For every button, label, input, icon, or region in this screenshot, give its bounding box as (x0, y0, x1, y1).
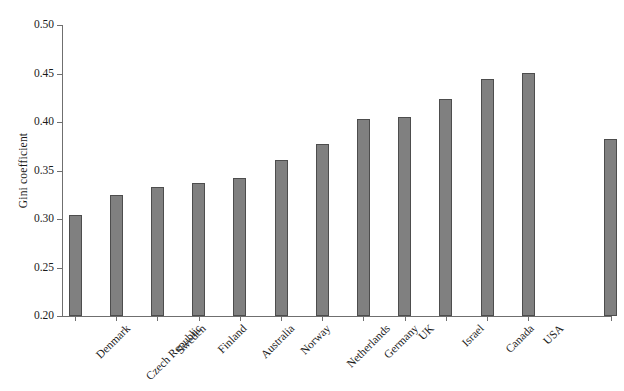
x-axis-tick (446, 316, 447, 321)
x-axis-label-text: Canada (503, 322, 536, 355)
y-axis-tick-label-wrapper: 0.50 (0, 19, 54, 31)
gini-coefficient-bar-chart: Gini coefficient 0.500.450.400.350.300.2… (0, 0, 624, 391)
x-axis-label: UK (415, 322, 435, 342)
y-axis-tick-label: 0.25 (4, 262, 54, 274)
bar (192, 183, 205, 316)
bar (522, 73, 535, 316)
x-axis-label-text: Denmark (94, 322, 133, 361)
x-axis-label: Israel (459, 322, 486, 349)
x-axis-label-text: Israel (459, 322, 486, 349)
bar (69, 215, 82, 316)
x-axis-tick (75, 316, 76, 321)
x-axis-label: Canada (503, 322, 536, 355)
bar (316, 144, 329, 316)
bar (481, 79, 494, 316)
bar (275, 160, 288, 316)
x-axis-label: Australia (258, 322, 296, 360)
bar (151, 187, 164, 316)
x-axis-tick (528, 316, 529, 321)
x-axis-tick (363, 316, 364, 321)
bar (604, 139, 617, 316)
y-axis-tick (57, 122, 62, 123)
x-axis-label: Denmark (94, 322, 133, 361)
y-axis-tick-label-wrapper: 0.40 (0, 116, 54, 128)
x-axis-label-text: Netherlands (344, 322, 392, 370)
x-axis-tick (611, 316, 612, 321)
y-axis-tick (57, 74, 62, 75)
y-axis-tick-label: 0.50 (4, 19, 54, 31)
bar (439, 99, 452, 316)
x-axis-label: USA (541, 322, 566, 347)
x-axis-label: Norway (298, 322, 333, 357)
y-axis-tick (57, 171, 62, 172)
y-axis-line (62, 25, 63, 317)
x-axis-tick (487, 316, 488, 321)
y-axis-tick (57, 316, 62, 317)
x-axis-tick (199, 316, 200, 321)
x-axis-label: Netherlands (344, 322, 392, 370)
x-axis-tick (405, 316, 406, 321)
y-axis-tick (57, 25, 62, 26)
x-axis-tick (281, 316, 282, 321)
x-axis-label-text: UK (415, 322, 435, 342)
x-axis-label-text: USA (541, 322, 566, 347)
y-axis-tick-label-wrapper: 0.25 (0, 262, 54, 274)
bar (398, 117, 411, 316)
y-axis-tick-label-wrapper: 0.45 (0, 68, 54, 80)
x-axis-label-text: Finland (215, 322, 248, 355)
y-axis-tick-label: 0.35 (4, 165, 54, 177)
y-axis-tick-label-wrapper: 0.20 (0, 310, 54, 322)
x-axis-label-text: Australia (258, 322, 296, 360)
x-axis-tick (157, 316, 158, 321)
y-axis-tick-label: 0.20 (4, 310, 54, 322)
y-axis-tick-label: 0.40 (4, 116, 54, 128)
y-axis-tick (57, 219, 62, 220)
x-axis-tick (322, 316, 323, 321)
x-axis-label-text: Norway (298, 322, 333, 357)
bar (357, 119, 370, 316)
bar (110, 195, 123, 316)
y-axis-tick-label-wrapper: 0.35 (0, 165, 54, 177)
x-axis-label: Finland (215, 322, 248, 355)
y-axis-tick-label: 0.30 (4, 213, 54, 225)
y-axis-tick-label: 0.45 (4, 68, 54, 80)
y-axis-tick (57, 268, 62, 269)
x-axis-tick (116, 316, 117, 321)
bar (233, 178, 246, 316)
x-axis-tick (240, 316, 241, 321)
y-axis-tick-label-wrapper: 0.30 (0, 213, 54, 225)
